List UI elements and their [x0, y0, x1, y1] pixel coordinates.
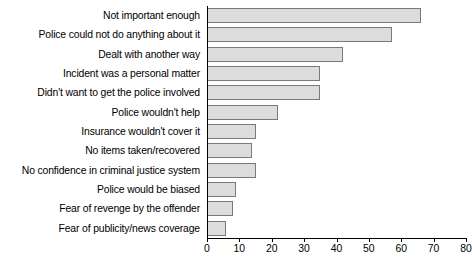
x-tick	[466, 238, 467, 242]
bar	[207, 201, 233, 216]
category-label: Not important enough	[0, 10, 200, 21]
x-tick-label: 30	[298, 243, 310, 255]
bar-track	[207, 45, 343, 64]
bar-track	[207, 64, 320, 83]
bar	[207, 163, 256, 178]
x-tick	[304, 238, 305, 242]
bar-track	[207, 180, 236, 199]
x-tick	[207, 238, 208, 242]
bar-track	[207, 161, 256, 180]
x-tick	[401, 238, 402, 242]
bar-track	[207, 6, 421, 25]
bar-track	[207, 103, 278, 122]
x-tick	[337, 238, 338, 242]
category-label: Police would be biased	[0, 184, 200, 195]
x-tick-label: 0	[204, 243, 210, 255]
x-tick-label: 40	[331, 243, 343, 255]
bar-row: Fear of revenge by the offender	[0, 199, 468, 218]
x-tick	[434, 238, 435, 242]
x-tick-label: 50	[363, 243, 375, 255]
category-label: Didn't want to get the police involved	[0, 87, 200, 98]
category-label: No items taken/recovered	[0, 145, 200, 156]
bar	[207, 105, 278, 120]
category-label: No confidence in criminal justice system	[0, 165, 200, 176]
bar-row: Dealt with another way	[0, 45, 468, 64]
x-tick-label: 20	[266, 243, 278, 255]
bar	[207, 47, 343, 62]
bar-row: Police would be biased	[0, 180, 468, 199]
bar-row: Police wouldn't help	[0, 103, 468, 122]
bar	[207, 66, 320, 81]
bar-track	[207, 141, 252, 160]
bar	[207, 85, 320, 100]
category-label: Police wouldn't help	[0, 107, 200, 118]
bar	[207, 182, 236, 197]
x-tick	[369, 238, 370, 242]
x-tick-label: 10	[234, 243, 246, 255]
y-axis-line	[207, 6, 208, 238]
bar-track	[207, 25, 392, 44]
x-tick-label: 80	[460, 243, 472, 255]
bar	[207, 143, 252, 158]
bar-row: Insurance wouldn't cover it	[0, 122, 468, 141]
bar	[207, 124, 256, 139]
x-tick	[239, 238, 240, 242]
x-tick-label: 60	[395, 243, 407, 255]
bar-row: Didn't want to get the police involved	[0, 83, 468, 102]
category-label: Insurance wouldn't cover it	[0, 126, 200, 137]
category-label: Dealt with another way	[0, 49, 200, 60]
bar-row: No confidence in criminal justice system	[0, 161, 468, 180]
bar-row: Fear of publicity/news coverage	[0, 219, 468, 238]
category-label: Fear of publicity/news coverage	[0, 223, 200, 234]
bar-track	[207, 199, 233, 218]
bar	[207, 27, 392, 42]
category-label: Fear of revenge by the offender	[0, 203, 200, 214]
bar-track	[207, 122, 256, 141]
x-tick-label: 70	[428, 243, 440, 255]
bar	[207, 8, 421, 23]
bar-row: No items taken/recovered	[0, 141, 468, 160]
category-label: Incident was a personal matter	[0, 68, 200, 79]
x-tick	[272, 238, 273, 242]
category-label: Police could not do anything about it	[0, 29, 200, 40]
bar-row: Not important enough	[0, 6, 468, 25]
bar-track	[207, 219, 226, 238]
bar	[207, 221, 226, 236]
bar-row: Incident was a personal matter	[0, 64, 468, 83]
bar-rows: Not important enoughPolice could not do …	[0, 6, 468, 238]
bar-row: Police could not do anything about it	[0, 25, 468, 44]
bar-track	[207, 83, 320, 102]
